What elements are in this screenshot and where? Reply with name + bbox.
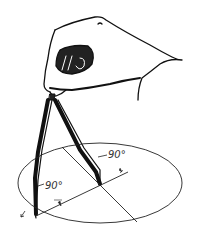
compass-diagram: 90° 90°	[0, 0, 199, 240]
angle-label-bottom: 90°	[45, 180, 63, 191]
angle-label-top: 90°	[108, 149, 126, 160]
compass	[35, 94, 100, 218]
hand-illustration	[44, 17, 182, 100]
